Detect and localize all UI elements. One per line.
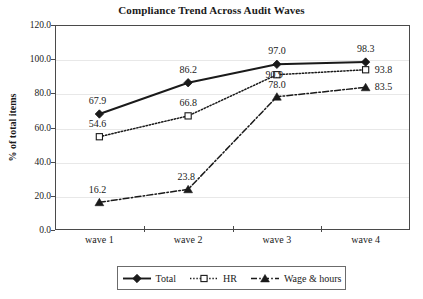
legend-entry-3[interactable]: Wage & hours: [250, 273, 342, 284]
series-1: [95, 58, 370, 118]
legend-label: HR: [223, 273, 237, 284]
x-tick-label: wave 3: [233, 234, 321, 245]
y-tick-label: 40.0: [5, 157, 51, 167]
y-tick-mark: [51, 230, 55, 231]
data-point-marker: [363, 67, 369, 73]
data-label: 86.2: [158, 64, 218, 75]
chart-legend[interactable]: TotalHRWage & hours: [117, 266, 346, 290]
x-tick-label: wave 4: [322, 234, 410, 245]
series-line: [99, 87, 365, 202]
legend-entry-1[interactable]: Total: [122, 273, 176, 284]
legend-swatch-open-square: [189, 273, 219, 284]
data-point-marker: [132, 274, 140, 282]
legend-label: Wage & hours: [284, 273, 342, 284]
data-label: 16.2: [67, 184, 127, 195]
data-point-marker: [201, 275, 207, 281]
data-label: 66.8: [158, 97, 218, 108]
chart-container: Compliance Trend Across Audit Waves % of…: [0, 0, 423, 299]
series-line: [99, 70, 365, 137]
x-tick-mark: [321, 226, 322, 232]
data-point-marker: [185, 113, 191, 119]
data-point-marker: [184, 79, 192, 87]
data-point-marker: [361, 58, 369, 66]
y-tick-label: 100.0: [5, 54, 51, 64]
data-label: 23.8: [156, 171, 216, 182]
chart-title: Compliance Trend Across Audit Waves: [0, 4, 423, 16]
data-label: 93.8: [375, 64, 393, 75]
data-label: 67.9: [67, 95, 127, 106]
legend-swatch-filled-diamond: [122, 273, 152, 284]
legend-label: Total: [156, 273, 176, 284]
data-label: 54.6: [67, 118, 127, 129]
y-tick-label: 60.0: [5, 123, 51, 133]
data-point-marker: [96, 134, 102, 140]
x-tick-mark: [233, 226, 234, 232]
x-tick-label: wave 1: [55, 234, 143, 245]
x-tick-label: wave 2: [144, 234, 232, 245]
legend-swatch-filled-triangle: [250, 273, 280, 284]
data-label: 97.0: [247, 45, 307, 56]
data-label: 98.3: [336, 43, 396, 54]
y-tick-label: 0.0: [5, 225, 51, 235]
data-label: 83.5: [375, 81, 393, 92]
legend-entry-2[interactable]: HR: [189, 273, 237, 284]
y-axis-ticks: 120.0100.080.060.040.020.00.0: [0, 25, 51, 230]
x-axis-ticks: wave 1wave 2wave 3wave 4: [55, 232, 410, 250]
y-tick-label: 120.0: [5, 20, 51, 30]
y-tick-label: 20.0: [5, 191, 51, 201]
data-point-marker: [273, 60, 281, 68]
y-tick-label: 80.0: [5, 88, 51, 98]
x-tick-mark: [144, 226, 145, 232]
data-label: 78.0: [247, 79, 307, 90]
